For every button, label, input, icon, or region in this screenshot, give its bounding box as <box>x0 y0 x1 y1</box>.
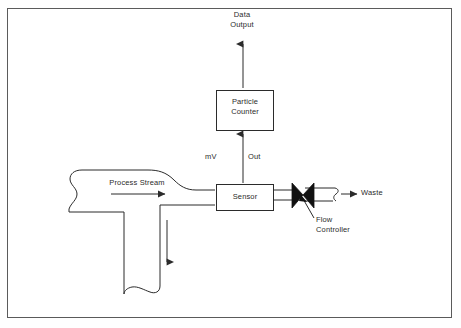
label-out: Out <box>248 152 278 162</box>
process-pipe-lower-wall <box>124 205 215 294</box>
waste-pipe-break <box>334 188 338 201</box>
label-process-stream: Process Stream <box>95 178 179 188</box>
diagram-canvas: Data Output Particle Counter mV Out Sens… <box>0 0 461 328</box>
label-data-output: Data Output <box>212 10 272 29</box>
label-flow-controller: Flow Controller <box>316 215 370 234</box>
label-waste: Waste <box>361 188 401 198</box>
process-pipe-left-wall <box>69 209 124 294</box>
flow-controller-valve-icon <box>292 183 314 208</box>
label-particle-counter: Particle Counter <box>216 97 274 116</box>
process-pipe-upper-wall <box>69 170 215 209</box>
label-mv: mV <box>205 152 231 162</box>
diagram-artwork <box>0 0 461 328</box>
label-sensor: Sensor <box>216 192 274 202</box>
